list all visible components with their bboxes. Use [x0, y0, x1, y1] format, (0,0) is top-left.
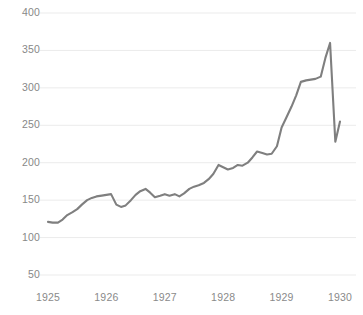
- y-tick-label-100: 100: [6, 232, 40, 243]
- y-axis-tick-labels: 50100150200250300350400: [0, 0, 40, 315]
- gridlines: [40, 13, 356, 275]
- chart-container: 50100150200250300350400 1925192619271928…: [0, 0, 363, 315]
- data-series-group: [48, 43, 340, 223]
- y-tick-label-400: 400: [6, 7, 40, 18]
- y-tick-label-50: 50: [6, 269, 40, 280]
- x-tick-label-1930: 1930: [320, 291, 360, 303]
- x-tick-label-1927: 1927: [145, 291, 185, 303]
- x-tick-label-1929: 1929: [262, 291, 302, 303]
- line-chart-plot: [0, 0, 363, 315]
- y-tick-label-250: 250: [6, 119, 40, 130]
- y-tick-label-300: 300: [6, 82, 40, 93]
- x-tick-label-1928: 1928: [203, 291, 243, 303]
- series-line-index: [48, 43, 340, 223]
- x-axis-tick-labels: 192519261927192819291930: [0, 291, 363, 309]
- y-tick-label-150: 150: [6, 194, 40, 205]
- x-tick-label-1925: 1925: [28, 291, 68, 303]
- y-tick-label-200: 200: [6, 157, 40, 168]
- x-tick-label-1926: 1926: [86, 291, 126, 303]
- y-tick-label-350: 350: [6, 44, 40, 55]
